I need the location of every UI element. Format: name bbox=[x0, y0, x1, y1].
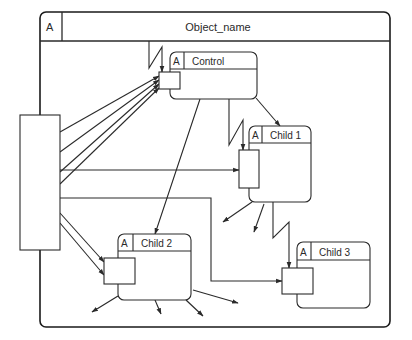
object-tag-label: A bbox=[300, 247, 307, 258]
object-control[interactable]: A Control bbox=[159, 52, 257, 99]
object-tag-label: A bbox=[121, 238, 128, 249]
external-interface-block[interactable] bbox=[20, 115, 60, 250]
object-name: Child 3 bbox=[319, 247, 351, 258]
object-tag-label: A bbox=[252, 130, 259, 141]
frame-title: Object_name bbox=[185, 21, 250, 33]
object-name: Child 1 bbox=[270, 130, 302, 141]
object-tag-label: A bbox=[173, 56, 180, 67]
frame-tag-label: A bbox=[46, 21, 54, 33]
object-diagram: A Object_name A Control A Child 1 A Chil… bbox=[0, 0, 412, 340]
child-2-port[interactable] bbox=[104, 258, 135, 284]
object-name: Control bbox=[192, 56, 224, 67]
object-child-1[interactable]: A Child 1 bbox=[239, 126, 311, 202]
control-port[interactable] bbox=[159, 72, 180, 89]
child-3-port[interactable] bbox=[282, 268, 313, 294]
child-1-port[interactable] bbox=[239, 150, 259, 188]
object-name: Child 2 bbox=[141, 238, 173, 249]
